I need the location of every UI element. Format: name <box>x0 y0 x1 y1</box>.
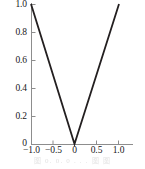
y-tick-label-0.2: 0.2 <box>0 112 27 122</box>
y-tick-label-1.0: 1.0 <box>0 0 27 10</box>
chart-plot-area: 1.0 0.8 0.6 0.4 0.2 0 −1.0 −0.5 0 0.5 1.… <box>0 0 145 152</box>
chart-svg <box>0 0 145 152</box>
y-tick-label-0.6: 0.6 <box>0 56 27 66</box>
figure-caption: 图 0. 0. 0 . . . 图 图 <box>0 155 145 169</box>
y-tick-label-0.4: 0.4 <box>0 84 27 94</box>
y-axis-ticks <box>32 5 36 117</box>
data-series-abs-x <box>31 4 119 144</box>
y-tick-label-0.8: 0.8 <box>0 28 27 38</box>
figure-container: 1.0 0.8 0.6 0.4 0.2 0 −1.0 −0.5 0 0.5 1.… <box>0 0 145 169</box>
